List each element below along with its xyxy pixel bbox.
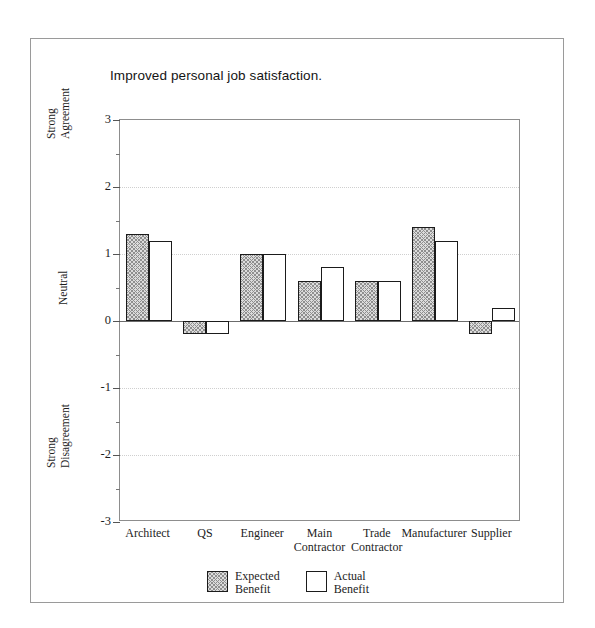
legend-entry: Actual Benefit [306,570,369,595]
bar-expected-main-contractor [298,281,321,321]
y-tick-major [113,455,120,456]
x-axis-label: Supplier [471,526,512,540]
y-tick-minor [116,355,120,356]
gridline [120,187,519,188]
zero-line [120,321,519,322]
x-axis-label: Trade Contractor [351,526,402,554]
y-tick-major [113,187,120,188]
legend-swatch-actual [306,571,327,592]
y-anchor-strong-disagreement: Strong Disagreement [44,455,72,467]
chart-title: Improved personal job satisfaction. [110,68,322,83]
y-tick-label: 0 [81,313,111,328]
y-tick-major [113,120,120,121]
x-axis-label: Engineer [241,526,284,540]
bar-expected-supplier [469,321,492,334]
y-tick-major [113,321,120,322]
y-tick-major [113,522,120,523]
legend-swatch-expected [207,571,228,592]
y-tick-minor [116,422,120,423]
y-tick-minor [116,221,120,222]
bar-actual-architect [149,241,172,321]
y-tick-label: -2 [81,447,111,462]
y-anchor-strong-disagreement-line1: Strong [45,454,57,468]
bar-expected-architect [126,234,149,321]
y-tick-label: 3 [81,112,111,127]
gridline [120,254,519,255]
legend-label: Expected Benefit [235,570,280,595]
y-tick-major [113,388,120,389]
y-anchor-strong-disagreement-line2: Disagreement [59,454,71,468]
x-axis-label: Manufacturer [401,526,466,540]
y-anchor-strong-agreement-line2: Agreement [59,125,71,139]
y-axis-tick-labels: 3210-1-2-3 [81,119,111,521]
y-tick-label: 1 [81,246,111,261]
bar-actual-supplier [492,308,515,321]
y-anchor-strong-agreement-line1: Strong [45,125,57,139]
bar-actual-trade-contractor [378,281,401,321]
x-axis-label: QS [197,526,212,540]
bar-expected-trade-contractor [355,281,378,321]
y-tick-label: -3 [81,514,111,529]
y-tick-minor [116,154,120,155]
legend-entry: Expected Benefit [207,570,280,595]
x-axis-category-labels: ArchitectQSEngineerMain ContractorTrade … [119,526,520,564]
bar-expected-qs [183,321,206,334]
gridline [120,388,519,389]
bar-actual-engineer [263,254,286,321]
legend-label: Actual Benefit [334,570,369,595]
bar-expected-manufacturer [412,227,435,321]
y-tick-major [113,254,120,255]
y-anchor-strong-agreement: Strong Agreement [44,126,72,138]
bar-actual-manufacturer [435,241,458,321]
x-axis-label: Architect [125,526,170,540]
gridline [120,455,519,456]
y-anchor-neutral-text: Neutral [57,291,69,305]
bar-expected-engineer [240,254,263,321]
y-tick-label: -1 [81,380,111,395]
y-tick-minor [116,288,120,289]
y-anchor-neutral: Neutral [56,292,70,304]
chart-legend: Expected BenefitActual Benefit [207,570,369,595]
x-axis-label: Main Contractor [294,526,345,554]
y-tick-minor [116,489,120,490]
bar-actual-qs [206,321,229,334]
bar-actual-main-contractor [321,267,344,321]
y-tick-label: 2 [81,179,111,194]
plot-area [119,119,520,521]
